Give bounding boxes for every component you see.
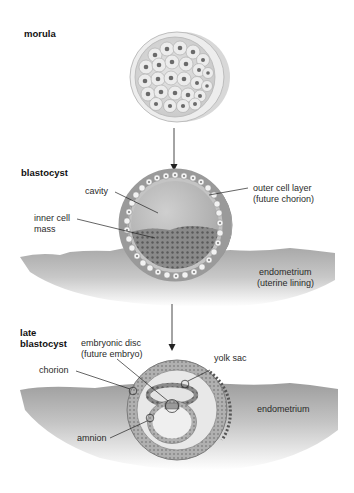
label-chorion: chorion — [39, 365, 69, 376]
label-endometrium-upper-line2: (uterine lining) — [257, 278, 314, 289]
label-outer-cell-layer-line2: (future chorion) — [253, 194, 314, 205]
stage-title-blastocyst: blastocyst — [21, 167, 68, 178]
stage-title-late-line2: blastocyst — [20, 338, 67, 349]
label-embryonic-disc-line2: (future embryo) — [81, 349, 143, 360]
diagram-artwork — [0, 0, 354, 493]
label-yolk-sac: yolk sac — [214, 353, 247, 364]
label-amnion: amnion — [77, 433, 107, 444]
morula-illustration — [130, 32, 230, 122]
stage-title-morula: morula — [24, 28, 56, 39]
stage-title-late-line1: late — [20, 327, 36, 338]
label-outer-cell-layer-line1: outer cell layer — [253, 183, 312, 194]
label-endometrium-lower: endometrium — [257, 404, 310, 415]
arrow-blastocyst-to-late — [169, 304, 176, 351]
label-embryonic-disc-line1: embryonic disc — [81, 338, 141, 349]
label-inner-cell-mass-line1: inner cell — [34, 213, 70, 224]
arrow-morula-to-blastocyst — [171, 128, 178, 171]
label-cavity: cavity — [85, 186, 108, 197]
label-endometrium-upper-line1: endometrium — [259, 267, 312, 278]
label-inner-cell-mass-line2: mass — [34, 224, 56, 235]
